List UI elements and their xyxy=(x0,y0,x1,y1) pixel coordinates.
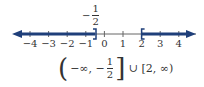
tick-label: −4 xyxy=(22,38,38,49)
tick-label: −2 xyxy=(59,38,75,49)
numerator: 1 xyxy=(92,4,98,14)
arrow-left-icon xyxy=(12,30,22,38)
fraction: 1 2 xyxy=(107,57,113,80)
interval-part2: [2, ∞) xyxy=(142,62,174,75)
tick-label: 1 xyxy=(115,38,131,49)
denominator: 2 xyxy=(92,17,98,27)
interval-notation: ( −∞, − 1 2 ] ∪ [2, ∞) xyxy=(58,52,173,84)
marker-label: − 1 2 xyxy=(82,4,99,27)
tick-label: 4 xyxy=(171,38,187,49)
numerator: 1 xyxy=(107,57,113,67)
tick-label: 2 xyxy=(134,38,150,49)
interval-part1: −∞, − xyxy=(70,62,105,75)
tick-label: 0 xyxy=(96,38,112,49)
arrow-right-icon xyxy=(186,30,196,38)
minus-sign: − xyxy=(82,10,90,21)
tick-label: 3 xyxy=(152,38,168,49)
union-symbol: ∪ xyxy=(125,62,141,75)
denominator: 2 xyxy=(107,70,113,80)
tick-label: −1 xyxy=(78,38,94,49)
tick-label: −3 xyxy=(41,38,57,49)
open-paren: ( xyxy=(58,53,68,83)
close-bracket: ] xyxy=(115,53,125,83)
